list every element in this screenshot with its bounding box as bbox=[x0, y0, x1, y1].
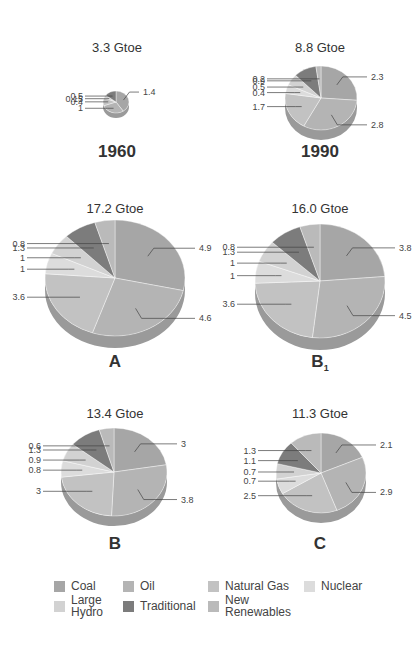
legend-swatch-oil bbox=[123, 581, 134, 592]
slice-value-label: 2.1 bbox=[380, 440, 393, 450]
pie-slice-natural-gas bbox=[255, 281, 320, 338]
legend-item-oil: Oil bbox=[123, 580, 155, 592]
slice-value-label: 0.7 bbox=[243, 467, 256, 477]
slice-value-label: 1.4 bbox=[143, 87, 156, 97]
legend-swatch-nuclear bbox=[304, 581, 315, 592]
slice-value-label: 1 bbox=[20, 264, 25, 274]
legend-label-large-hydro: Large Hydro bbox=[71, 594, 103, 618]
legend-swatch-large-hydro bbox=[54, 601, 65, 612]
slice-value-label: 2.8 bbox=[371, 120, 384, 130]
legend-item-natural-gas: Natural Gas bbox=[208, 580, 289, 592]
pie-slice-oil bbox=[112, 465, 167, 516]
pie-caption-1960: 1960 bbox=[47, 142, 187, 162]
slice-value-label: 2.3 bbox=[371, 72, 384, 82]
slice-value-label: 1 bbox=[20, 253, 25, 263]
legend-swatch-new-renewables bbox=[208, 601, 219, 612]
slice-value-label: 0.7 bbox=[243, 476, 256, 486]
pie-panel-1990: 8.8 Gtoe 2.32.81.70.40.50.90.2 1990 bbox=[200, 0, 415, 170]
slice-value-label: 2.5 bbox=[243, 491, 256, 501]
pie-slice-coal bbox=[320, 224, 385, 281]
legend-item-traditional: Traditional bbox=[123, 600, 196, 612]
slice-value-label: 3.8 bbox=[399, 243, 412, 253]
slice-value-label: 0.6 bbox=[28, 441, 41, 451]
chart-legend: Coal Oil Natural Gas Nuclear Large Hydro… bbox=[52, 580, 392, 630]
slice-value-label: 0.9 bbox=[28, 455, 41, 465]
legend-label-new-renewables-line2: Renewables bbox=[225, 606, 291, 618]
slice-value-label: 0.2 bbox=[252, 74, 265, 84]
legend-swatch-coal bbox=[54, 581, 65, 592]
legend-item-new-renewables: New Renewables bbox=[208, 594, 291, 618]
pie-slice-natural-gas bbox=[61, 472, 114, 516]
pie-panel-1960: 3.3 Gtoe 1.410.40.150.5 1960 bbox=[0, 0, 210, 170]
legend-item-large-hydro: Large Hydro bbox=[54, 594, 103, 618]
pie-caption-a: A bbox=[45, 352, 185, 372]
slice-value-label: 2.9 bbox=[380, 487, 393, 497]
slice-value-label: 0.8 bbox=[222, 242, 235, 252]
pie-chart-a: 4.94.63.6111.30.8 bbox=[0, 170, 210, 380]
pie-caption-b1: B1 bbox=[250, 352, 390, 373]
legend-label-coal: Coal bbox=[71, 580, 96, 592]
slice-value-label: 1 bbox=[230, 258, 235, 268]
pie-panel-b1: 16.0 Gtoe 3.84.53.6111.30.8 B1 bbox=[200, 170, 415, 380]
slice-value-label: 3.6 bbox=[222, 299, 235, 309]
legend-label-nuclear: Nuclear bbox=[321, 580, 362, 592]
pie-caption-b: B bbox=[45, 534, 185, 554]
pie-caption-1990: 1990 bbox=[250, 142, 390, 162]
slice-value-label: 0.8 bbox=[12, 239, 25, 249]
legend-item-nuclear: Nuclear bbox=[304, 580, 362, 592]
legend-label-new-renewables: New Renewables bbox=[225, 594, 291, 618]
slice-value-label: 4.5 bbox=[399, 311, 412, 321]
slice-value-label: 1.1 bbox=[243, 456, 256, 466]
pie-caption-b1-subscript: 1 bbox=[324, 363, 329, 373]
slice-value-label: 0.5 bbox=[70, 91, 83, 101]
slice-value-label: 3 bbox=[36, 486, 41, 496]
pie-caption-c: C bbox=[250, 534, 390, 554]
pie-chart-b: 33.830.80.91.30.6 bbox=[0, 380, 210, 560]
slice-value-label: 3.6 bbox=[12, 292, 25, 302]
slice-value-label: 3 bbox=[181, 439, 186, 449]
legend-swatch-natural-gas bbox=[208, 581, 219, 592]
slice-value-label: 1.3 bbox=[243, 446, 256, 456]
legend-item-coal: Coal bbox=[54, 580, 96, 592]
pie-slice-oil bbox=[312, 277, 385, 338]
legend-label-oil: Oil bbox=[140, 580, 155, 592]
legend-label-traditional: Traditional bbox=[140, 600, 196, 612]
pie-panel-a: 17.2 Gtoe 4.94.63.6111.30.8 A bbox=[0, 170, 210, 380]
legend-swatch-traditional bbox=[123, 601, 134, 612]
pie-caption-b1-letter: B bbox=[311, 352, 323, 371]
pie-panel-c: 11.3 Gtoe 2.12.92.50.70.71.11.3 C bbox=[200, 380, 415, 560]
slice-value-label: 0.8 bbox=[28, 465, 41, 475]
slice-value-label: 1.7 bbox=[252, 102, 265, 112]
pie-panel-b: 13.4 Gtoe 33.830.80.91.30.6 B bbox=[0, 380, 210, 560]
pie-chart-b1: 3.84.53.6111.30.8 bbox=[200, 170, 415, 380]
slice-value-label: 1 bbox=[230, 271, 235, 281]
slice-value-label: 3.8 bbox=[181, 495, 194, 505]
pie-chart-c: 2.12.92.50.70.71.11.3 bbox=[200, 380, 415, 560]
legend-label-natural-gas: Natural Gas bbox=[225, 580, 289, 592]
pie-slice-coal bbox=[321, 66, 357, 100]
pie-slice-coal bbox=[114, 428, 166, 472]
legend-label-large-hydro-line2: Hydro bbox=[71, 606, 103, 618]
